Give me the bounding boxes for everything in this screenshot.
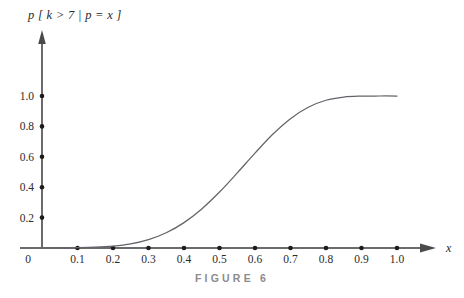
x-tick-label: 0.4 [177,253,192,265]
x-axis-arrow-icon [420,244,436,253]
x-axis-name-label: x [445,241,452,255]
x-tick-dot [217,246,222,251]
plot-area: 0.10.20.30.40.50.60.70.80.91.00.20.40.60… [0,0,464,298]
y-tick-dot [40,185,45,190]
origin-label: 0 [25,253,31,265]
tick-labels-group: 0.10.20.30.40.50.60.70.80.91.00.20.40.60… [20,90,405,265]
x-tick-label: 0.1 [70,253,85,265]
y-tick-dot [40,124,45,129]
y-tick-label: 0.6 [20,151,35,163]
x-tick-label: 0.7 [283,253,298,265]
x-tick-dot [288,246,293,251]
y-tick-label: 0.8 [20,120,35,132]
x-tick-label: 0.9 [354,253,369,265]
figure-caption: FIGURE 6 [0,272,464,284]
y-tick-dot [40,215,45,220]
x-tick-dot [395,246,400,251]
x-tick-dot [324,246,329,251]
y-tick-label: 1.0 [20,90,35,102]
x-tick-dot [253,246,258,251]
y-tick-dot [40,155,45,160]
x-tick-label: 0.3 [141,253,156,265]
x-tick-label: 0.5 [212,253,227,265]
figure-container: p [ k > 7 | p = x ] 0.10.20.30.40.50.60.… [0,0,464,298]
y-tick-label: 0.2 [20,212,35,224]
axes-group [20,30,436,252]
x-tick-label: 0.2 [106,253,121,265]
y-axis-arrow-icon [38,30,46,44]
y-tick-label: 0.4 [20,181,35,193]
x-tick-label: 1.0 [390,253,405,265]
x-tick-label: 0.6 [248,253,263,265]
y-tick-dot [40,94,45,99]
sigmoid-curve [42,96,397,248]
x-tick-dot [146,246,151,251]
x-tick-dot [182,246,187,251]
x-tick-dot [359,246,364,251]
tick-marks-group [40,94,400,251]
x-tick-label: 0.8 [319,253,334,265]
